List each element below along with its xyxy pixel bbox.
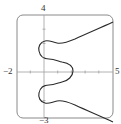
x-min-label: −2: [3, 67, 13, 76]
x-max-label: 5: [115, 67, 120, 76]
plot-area: [0, 0, 121, 124]
y-max-label: 4: [41, 4, 46, 13]
y-min-label: −3: [39, 116, 49, 124]
viewing-window-frame: [17, 15, 113, 118]
